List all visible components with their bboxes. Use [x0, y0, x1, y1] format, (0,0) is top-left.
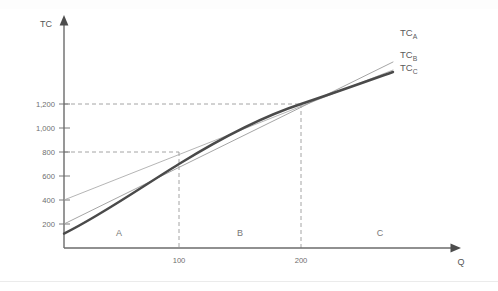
region-label-c: C	[377, 228, 384, 238]
region-label-b: B	[237, 228, 243, 238]
series-label-tc-b: TCB	[400, 49, 418, 62]
region-annotations: A B C	[116, 228, 384, 238]
y-tick-label-1200: 1,200	[36, 100, 55, 109]
series-label-tc-b-sub: B	[413, 55, 418, 62]
x-axis-title: Q	[457, 257, 464, 267]
chart-canvas: 200 400 600 800 1,000 1,200 TC 100 200 Q	[0, 0, 498, 291]
region-label-a: A	[116, 228, 122, 238]
series-label-tc-c: TCC	[400, 62, 418, 75]
series-label-tc-c-text: TC	[400, 62, 413, 73]
x-axis: 100 200 Q	[64, 244, 465, 267]
y-axis-title: TC	[40, 19, 52, 29]
bottom-divider	[0, 281, 498, 282]
y-tick-label-400: 400	[42, 196, 55, 205]
top-edge-artifact	[0, 0, 498, 9]
series-tc-c-curve	[64, 72, 393, 234]
y-axis: 200 400 600 800 1,000 1,200 TC	[36, 15, 70, 248]
y-axis-arrow-icon	[60, 15, 69, 26]
series-tc-c	[64, 72, 393, 234]
x-tick-label-200: 200	[295, 256, 308, 265]
reference-lines	[64, 104, 301, 248]
series-label-tc-a: TCA	[400, 27, 418, 40]
y-tick-label-1000: 1,000	[36, 124, 55, 133]
series-label-tc-b-text: TC	[400, 49, 413, 60]
series-label-tc-a-text: TC	[400, 27, 413, 38]
y-tick-label-200: 200	[42, 220, 55, 229]
x-tick-label-100: 100	[173, 256, 186, 265]
series-label-tc-a-sub: A	[413, 33, 418, 40]
total-cost-chart: 200 400 600 800 1,000 1,200 TC 100 200 Q	[0, 0, 498, 291]
series-labels: TCA TCB TCC	[400, 27, 418, 75]
x-axis-arrow-icon	[451, 244, 462, 253]
y-tick-label-600: 600	[42, 172, 55, 181]
series-label-tc-c-sub: C	[413, 68, 418, 75]
series-tc-b	[64, 62, 393, 224]
series-tc-b-line	[64, 62, 393, 224]
y-tick-label-800: 800	[42, 148, 55, 157]
